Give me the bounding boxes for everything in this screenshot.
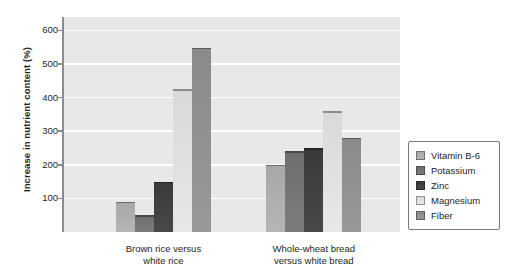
chart-legend: Vitamin B-6PotassiumZincMagnesiumFiber xyxy=(408,141,500,230)
category-label-2: Whole-wheat bread versus white bread xyxy=(244,243,384,267)
bar-cap xyxy=(116,202,135,204)
gridline-300 xyxy=(62,130,400,132)
y-tick-mark-300 xyxy=(58,130,64,132)
legend-swatch-vitamin-b-6 xyxy=(416,151,425,160)
bar-potassium-group-1 xyxy=(135,215,154,232)
gridline-600 xyxy=(62,30,400,32)
legend-swatch-magnesium xyxy=(416,196,425,205)
bar-cap xyxy=(304,148,323,150)
legend-swatch-fiber xyxy=(416,211,425,220)
bar-zinc-group-2 xyxy=(304,148,323,232)
bar-potassium-group-2 xyxy=(285,151,304,232)
y-tick-label-500: 500 xyxy=(28,59,58,69)
legend-label-magnesium: Magnesium xyxy=(431,195,480,206)
legend-item-zinc: Zinc xyxy=(416,178,493,193)
bar-zinc-group-1 xyxy=(154,182,173,232)
legend-label-zinc: Zinc xyxy=(431,180,449,191)
legend-label-vitamin-b-6: Vitamin B-6 xyxy=(431,150,480,161)
y-tick-label-300: 300 xyxy=(28,126,58,136)
y-tick-label-600: 600 xyxy=(28,25,58,35)
y-tick-mark-200 xyxy=(58,164,64,166)
gridline-500 xyxy=(62,63,400,65)
bar-chart-figure: Increase in nutrient content (%) 1002003… xyxy=(0,0,508,280)
y-tick-mark-400 xyxy=(58,97,64,99)
bar-magnesium-group-2 xyxy=(323,111,342,232)
bar-cap xyxy=(135,215,154,217)
y-axis-tick-labels: 100200300400500600 xyxy=(24,0,58,280)
legend-item-magnesium: Magnesium xyxy=(416,193,493,208)
bar-fiber-group-1 xyxy=(192,48,211,232)
bar-cap xyxy=(192,48,211,50)
y-tick-label-400: 400 xyxy=(28,93,58,103)
y-tick-label-200: 200 xyxy=(28,160,58,170)
plot-area xyxy=(62,17,400,232)
y-tick-label-100: 100 xyxy=(28,193,58,203)
y-tick-mark-600 xyxy=(58,30,64,32)
y-tick-mark-100 xyxy=(58,198,64,200)
legend-swatch-zinc xyxy=(416,181,425,190)
legend-label-potassium: Potassium xyxy=(431,165,475,176)
y-tick-mark-500 xyxy=(58,63,64,65)
bar-fiber-group-2 xyxy=(342,138,361,232)
bar-cap xyxy=(342,138,361,140)
bar-cap xyxy=(173,89,192,91)
legend-item-fiber: Fiber xyxy=(416,208,493,223)
legend-swatch-potassium xyxy=(416,166,425,175)
bar-vitamin-b-6-group-1 xyxy=(116,202,135,232)
legend-item-potassium: Potassium xyxy=(416,163,493,178)
bar-vitamin-b-6-group-2 xyxy=(266,165,285,232)
legend-label-fiber: Fiber xyxy=(431,210,453,221)
bar-cap xyxy=(154,182,173,184)
legend-item-vitamin-b-6: Vitamin B-6 xyxy=(416,148,493,163)
bar-magnesium-group-1 xyxy=(173,89,192,232)
category-label-1: Brown rice versus white rice xyxy=(93,243,233,267)
bar-cap xyxy=(323,111,342,113)
bar-cap xyxy=(266,165,285,167)
gridline-400 xyxy=(62,97,400,99)
bar-cap xyxy=(285,151,304,153)
